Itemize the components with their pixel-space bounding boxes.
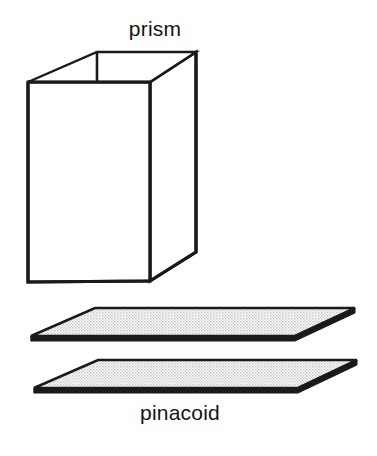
- figure-canvas: [0, 0, 377, 456]
- prism-shape: [28, 52, 196, 282]
- pinacoid-upper-plate: [31, 308, 355, 341]
- pinacoid-label: pinacoid: [0, 402, 360, 423]
- prism-front-face: [28, 82, 150, 282]
- prism-label: prism: [0, 18, 310, 39]
- pinacoid-upper-top-face: [31, 308, 355, 336]
- crystal-forms-figure: prism pinacoid: [0, 0, 377, 456]
- pinacoid-lower-top-face: [34, 360, 357, 388]
- prism-right-face: [150, 52, 196, 281]
- pinacoid-lower-plate: [34, 360, 357, 393]
